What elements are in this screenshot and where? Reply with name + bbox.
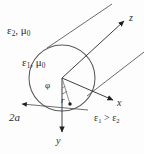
figure-canvas: ε2, μ0 ε1, μ0 ε1 > ε2 2a z x y r φ [0,0,144,154]
outer-medium-label: ε2, μ0 [7,25,30,38]
radius-label: r [61,96,65,105]
field-point-dot [68,102,71,105]
axis-z-label: z [129,13,133,23]
diameter-label: 2a [9,112,20,123]
angle-phi-label: φ [45,81,50,90]
permittivity-inequality-label: ε1 > ε2 [94,113,120,124]
axis-x-label: x [117,98,121,108]
axis-y-label: y [56,136,60,146]
cylinder-edge-bottom [87,52,144,96]
inner-medium-label: ε1, μ0 [22,57,45,70]
axis-z-line [62,21,124,78]
